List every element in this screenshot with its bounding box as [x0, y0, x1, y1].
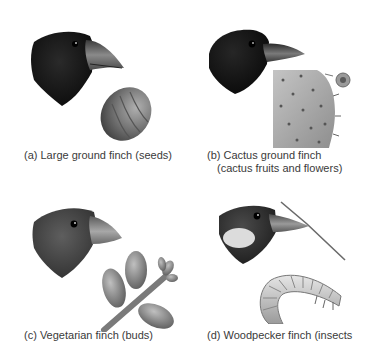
caption-a: (a) Large ground finch (seeds)	[24, 149, 172, 162]
caption-d: (d) Woodpecker finch (insects	[207, 329, 352, 342]
caption-b-line-2: (cactus fruits and flowers)	[217, 162, 342, 175]
cactus-pad-illustration	[273, 66, 351, 148]
buds-on-twig-illustration	[96, 250, 178, 332]
panel-vegetarian-finch: (c) Vegetarian finch (buds)	[0, 176, 185, 353]
panel-woodpecker-finch: (d) Woodpecker finch (insects	[185, 176, 369, 353]
insect-larva-illustration	[255, 270, 347, 324]
caption-c: (c) Vegetarian finch (buds)	[24, 329, 153, 342]
caption-b-line-1: (b) Cactus ground finch	[207, 149, 321, 162]
panel-cactus-ground-finch: (b) Cactus ground finch (cactus fruits a…	[185, 0, 369, 176]
seed-illustration	[96, 84, 156, 144]
woodpecker-finch-head-illustration	[217, 200, 349, 266]
panel-large-ground-finch: (a) Large ground finch (seeds)	[0, 0, 185, 176]
